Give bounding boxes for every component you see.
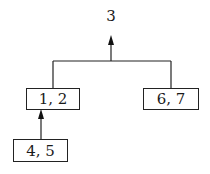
node-label: 6, 7 bbox=[157, 90, 186, 108]
node-box-6-7: 6, 7 bbox=[143, 88, 199, 110]
node-box-1-2: 1, 2 bbox=[26, 88, 80, 110]
node-label: 1, 2 bbox=[39, 90, 68, 108]
root-label: 3 bbox=[101, 9, 121, 24]
arrow-head-icon bbox=[108, 35, 114, 45]
arrow-head-icon bbox=[38, 109, 44, 119]
node-label: 4, 5 bbox=[26, 142, 55, 160]
node-box-4-5: 4, 5 bbox=[13, 139, 68, 162]
